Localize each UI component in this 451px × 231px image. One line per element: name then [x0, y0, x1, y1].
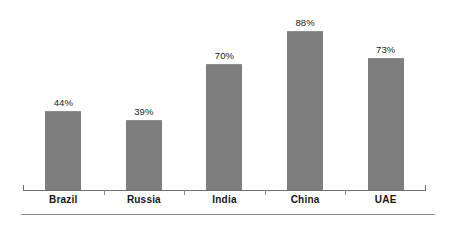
x-axis-line	[23, 190, 426, 191]
category-label-row: BrazilRussiaIndiaChinaUAE	[23, 194, 426, 210]
bar-value-label: 70%	[215, 50, 234, 61]
bar-value-label: 39%	[134, 106, 153, 117]
bar-value-label: 73%	[376, 44, 395, 55]
bar-china	[287, 31, 323, 190]
bar-india	[206, 64, 242, 190]
bar-group: 44%	[23, 6, 104, 190]
bar-group: 70%	[184, 6, 265, 190]
bar-group: 88%	[265, 6, 346, 190]
category-label-uae: UAE	[345, 194, 426, 205]
bottom-rule	[21, 214, 435, 215]
axis-endcap-left	[23, 185, 24, 191]
bar-uae	[368, 58, 404, 190]
category-label-russia: Russia	[104, 194, 185, 205]
bar-russia	[126, 120, 162, 190]
bar-group: 73%	[345, 6, 426, 190]
bar-value-label: 44%	[54, 97, 73, 108]
axis-endcap-right	[425, 185, 426, 191]
bar-value-label: 88%	[295, 17, 314, 28]
bar-chart: 44%39%70%88%73% BrazilRussiaIndiaChinaUA…	[0, 0, 451, 231]
bar-group: 39%	[104, 6, 185, 190]
category-label-brazil: Brazil	[23, 194, 104, 205]
plot-area: 44%39%70%88%73%	[23, 6, 426, 190]
category-label-china: China	[265, 194, 346, 205]
category-label-india: India	[184, 194, 265, 205]
bar-brazil	[45, 111, 81, 191]
